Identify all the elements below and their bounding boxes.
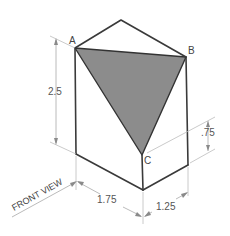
point-label-c: C [144,155,151,166]
front-view-label: FRONT VIEW [10,176,65,212]
front-width-label: 1.75 [97,194,117,205]
point-label-a: A [69,35,76,46]
side-depth-label: 1.25 [156,201,176,212]
c-offset-label: .75 [201,127,215,138]
isometric-drawing: A B C 2.5 .75 1.75 1.25 FRONT VIEW [0,0,230,236]
height-label: 2.5 [48,86,62,97]
point-label-b: B [188,45,195,56]
